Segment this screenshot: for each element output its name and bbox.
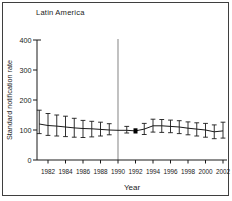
x-tick-label: 1988 [93, 168, 108, 175]
x-tick-label: 1996 [163, 168, 178, 175]
error-bar [221, 122, 226, 138]
error-bar [107, 124, 112, 135]
error-bar [124, 126, 129, 133]
y-tick-label: 0 [28, 156, 32, 165]
x-tick-label: 2000 [198, 168, 213, 175]
error-bar [46, 114, 51, 136]
axes [37, 40, 227, 160]
x-tick-label: 1986 [76, 168, 91, 175]
x-tick-label: 2002 [216, 168, 231, 175]
x-tick-label: 1992 [128, 168, 143, 175]
x-tick-label: 1984 [58, 168, 73, 175]
y-tick-label: 100 [20, 126, 32, 135]
y-tick-label: 300 [20, 66, 32, 75]
y-tick-label: 200 [20, 96, 32, 105]
x-tick-label: 1982 [41, 168, 56, 175]
x-tick-label: 1994 [146, 168, 161, 175]
square-marker [134, 128, 138, 133]
x-tick-label: 1990 [111, 168, 126, 175]
chart-svg: 0100200300400198219841986198819901992199… [0, 0, 232, 201]
x-tick-label: 1998 [181, 168, 196, 175]
error-bar [37, 110, 42, 133]
y-tick-label: 400 [20, 36, 32, 45]
data-line [39, 124, 223, 132]
x-axis-label: Year [37, 183, 227, 192]
